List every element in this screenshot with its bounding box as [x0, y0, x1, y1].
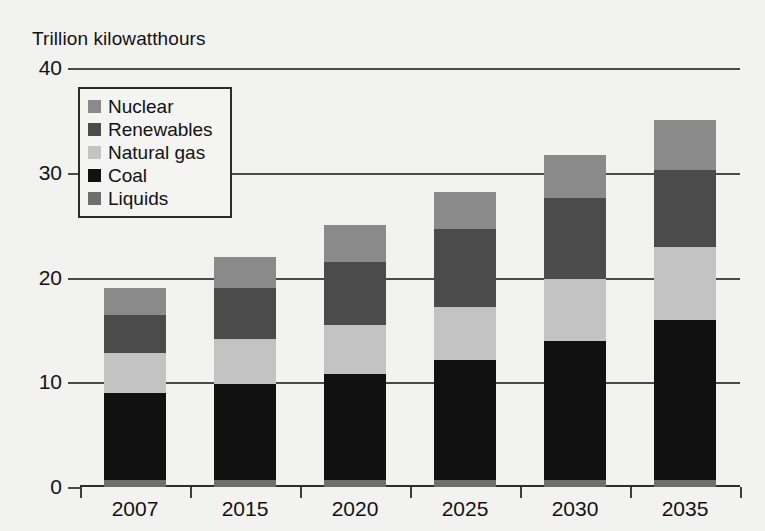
x-axis-label-2025: 2025 — [420, 497, 510, 521]
bar-segment-natural-gas[interactable] — [654, 247, 716, 320]
legend-item-coal[interactable]: Coal — [80, 164, 230, 187]
bar-2035[interactable] — [654, 120, 716, 487]
y-axis-tick-label: 20 — [39, 266, 62, 290]
y-axis-tick-20 — [68, 278, 80, 280]
x-axis-tick — [520, 487, 522, 498]
bar-segment-liquids[interactable] — [434, 480, 496, 487]
legend-item-label: Liquids — [108, 189, 168, 208]
legend-swatch-icon — [88, 169, 101, 182]
x-axis-tick — [410, 487, 412, 498]
bar-segment-renewables[interactable] — [544, 198, 606, 279]
bar-2007[interactable] — [104, 288, 166, 487]
x-axis-tick — [300, 487, 302, 498]
bar-segment-nuclear[interactable] — [214, 257, 276, 288]
bar-segment-coal[interactable] — [434, 360, 496, 479]
bar-segment-natural-gas[interactable] — [104, 353, 166, 393]
bar-segment-natural-gas[interactable] — [214, 339, 276, 384]
x-axis-tick — [190, 487, 192, 498]
bar-segment-nuclear[interactable] — [324, 225, 386, 262]
y-axis-tick-label: 30 — [39, 161, 62, 185]
gridline-10 — [80, 382, 740, 384]
bar-segment-liquids[interactable] — [324, 480, 386, 487]
bar-segment-coal[interactable] — [214, 384, 276, 479]
gridline-40 — [80, 68, 740, 70]
bar-segment-liquids[interactable] — [104, 480, 166, 487]
bar-segment-coal[interactable] — [654, 320, 716, 479]
bar-segment-renewables[interactable] — [324, 262, 386, 325]
legend-item-label: Coal — [108, 166, 147, 185]
bar-segment-liquids[interactable] — [544, 480, 606, 487]
x-axis-label-2020: 2020 — [310, 497, 400, 521]
x-axis-label-2007: 2007 — [90, 497, 180, 521]
bar-segment-natural-gas[interactable] — [544, 279, 606, 342]
x-axis-label-2030: 2030 — [530, 497, 620, 521]
x-axis-tick — [80, 487, 82, 498]
gridline-20 — [80, 278, 740, 280]
bar-segment-liquids[interactable] — [654, 480, 716, 487]
bar-2030[interactable] — [544, 155, 606, 487]
x-axis-tick — [630, 487, 632, 498]
bar-segment-coal[interactable] — [324, 374, 386, 480]
bar-segment-renewables[interactable] — [654, 170, 716, 248]
x-axis-label-2035: 2035 — [640, 497, 730, 521]
legend-swatch-icon — [88, 123, 101, 136]
bar-segment-nuclear[interactable] — [544, 155, 606, 198]
x-axis-label-2015: 2015 — [200, 497, 290, 521]
bar-segment-natural-gas[interactable] — [324, 325, 386, 374]
legend-item-liquids[interactable]: Liquids — [80, 187, 230, 210]
bar-segment-renewables[interactable] — [434, 229, 496, 307]
bar-segment-nuclear[interactable] — [434, 192, 496, 230]
y-axis-tick-0 — [68, 487, 80, 489]
y-axis-tick-label: 40 — [39, 56, 62, 80]
legend-item-renewables[interactable]: Renewables — [80, 118, 230, 141]
legend-item-label: Nuclear — [108, 97, 173, 116]
legend-swatch-icon — [88, 100, 101, 113]
bar-segment-renewables[interactable] — [214, 288, 276, 339]
x-axis-tick — [740, 487, 742, 498]
legend-item-natural-gas[interactable]: Natural gas — [80, 141, 230, 164]
bar-segment-liquids[interactable] — [214, 480, 276, 487]
chart-legend: NuclearRenewablesNatural gasCoalLiquids — [78, 87, 232, 218]
stacked-bar-chart-figure: Trillion kilowatthours 010203040 2007201… — [0, 0, 765, 531]
y-axis-tick-40 — [68, 68, 80, 70]
legend-swatch-icon — [88, 192, 101, 205]
y-axis-tick-label: 10 — [39, 370, 62, 394]
bar-segment-coal[interactable] — [544, 341, 606, 479]
bar-segment-nuclear[interactable] — [104, 288, 166, 315]
y-axis-tick-10 — [68, 382, 80, 384]
chart-axis-title: Trillion kilowatthours — [32, 28, 206, 50]
y-axis-tick-label: 0 — [50, 475, 62, 499]
legend-item-label: Natural gas — [108, 143, 205, 162]
bar-2020[interactable] — [324, 225, 386, 487]
legend-swatch-icon — [88, 146, 101, 159]
bar-segment-natural-gas[interactable] — [434, 307, 496, 360]
bar-segment-coal[interactable] — [104, 393, 166, 480]
bar-segment-nuclear[interactable] — [654, 120, 716, 169]
bar-2015[interactable] — [214, 257, 276, 487]
legend-item-nuclear[interactable]: Nuclear — [80, 95, 230, 118]
bar-2025[interactable] — [434, 192, 496, 487]
bar-segment-renewables[interactable] — [104, 315, 166, 353]
legend-item-label: Renewables — [108, 120, 213, 139]
